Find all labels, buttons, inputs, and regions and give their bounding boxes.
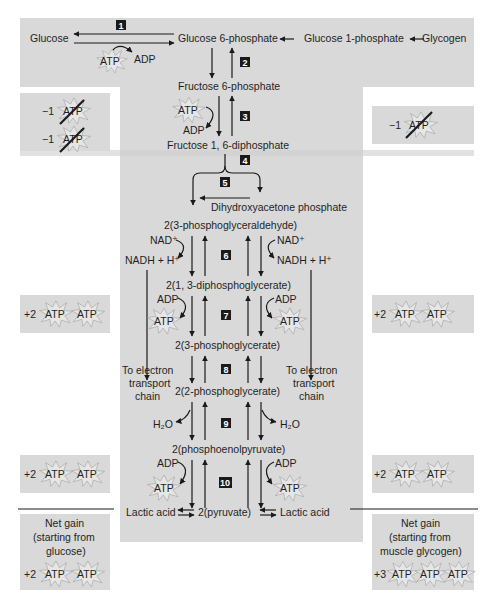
net-gain-glycogen-line1: Net gain — [401, 517, 440, 529]
left-gain10-amount: +2 — [24, 468, 36, 480]
nadh-left: NADH + H⁺ — [125, 254, 180, 266]
left-gain7-atp-2: ATP — [77, 308, 97, 320]
step-7-number: 7 — [224, 311, 229, 321]
nadh-right: NADH + H⁺ — [277, 254, 332, 266]
phosphoglyceraldehyde-label: 2(3-phosphoglyceraldehyde) — [164, 219, 297, 231]
step-2-number: 2 — [243, 58, 248, 68]
phosphoglycerate-2-label: 2(2-phosphoglycerate) — [175, 385, 280, 397]
step-6-number: 6 — [224, 251, 229, 261]
left-gain7-amount: +2 — [24, 308, 36, 320]
fructose-1-6-diphosphate-label: Fructose 1, 6-diphosphate — [167, 139, 289, 151]
left-gain10-atp-1: ATP — [45, 468, 65, 480]
etc-right-line2: transport — [293, 377, 335, 389]
nad-right: NAD⁺ — [277, 234, 305, 246]
diphosphoglycerate-label: 2(1, 3-diphosphoglycerate) — [166, 279, 291, 291]
net-gain-glycogen-atp-1: ATP — [392, 568, 412, 580]
atp-left-step10: ATP — [154, 482, 174, 494]
glucose-label: Glucose — [30, 32, 69, 44]
net-gain-glucose-line2: (starting from — [33, 531, 95, 543]
etc-left-line1: To electron — [122, 364, 174, 376]
right-gain7-atp-1: ATP — [395, 308, 415, 320]
step-8-number: 8 — [224, 365, 229, 375]
right-gain10-atp-2: ATP — [427, 468, 447, 480]
etc-right-line3: chain — [299, 390, 324, 402]
net-gain-glycogen-line3: muscle glycogen) — [380, 545, 462, 557]
right-gain10-atp-1: ATP — [395, 468, 415, 480]
adp-left-step10: ADP — [157, 457, 179, 469]
h2o-right: H₂O — [280, 418, 300, 430]
glucose-6-phosphate-label: Glucose 6-phosphate — [178, 32, 278, 44]
atp-right-step10: ATP — [280, 482, 300, 494]
adp-step1: ADP — [134, 53, 156, 65]
right-gain7-amount: +2 — [374, 308, 386, 320]
net-gain-glucose-line3: glucose) — [46, 545, 86, 557]
h2o-left: H₂O — [153, 418, 173, 430]
glycogen-label: Glycogen — [422, 32, 467, 44]
phosphoglycerate-3-label: 2(3-phosphoglycerate) — [175, 339, 280, 351]
phosphoenolpyruvate-label: 2(phosphoenolpyruvate) — [172, 443, 285, 455]
glucose-1-phosphate-label: Glucose 1-phosphate — [304, 32, 404, 44]
net-gain-glycogen-atp-2: ATP — [420, 568, 440, 580]
adp-step3: ADP — [183, 124, 205, 136]
atp-step1: ATP — [100, 55, 120, 67]
pyruvate-label: 2(pyruvate) — [198, 506, 251, 518]
right-gain-step7-box — [372, 295, 474, 333]
right-gain7-atp-2: ATP — [427, 308, 447, 320]
left-cost-amount-2: −1 — [42, 133, 54, 145]
net-gain-glycogen-amount: +3 — [374, 568, 386, 580]
atp-left-step7: ATP — [154, 315, 174, 327]
etc-left-line3: chain — [135, 390, 160, 402]
net-gain-glucose-line1: Net gain — [45, 517, 84, 529]
net-gain-glucose-atp-2: ATP — [77, 568, 97, 580]
lactic-acid-left-label: Lactic acid — [126, 506, 176, 518]
step-3-number: 3 — [243, 112, 248, 122]
nad-left: NAD⁺ — [150, 234, 178, 246]
net-gain-glycogen-atp-3: ATP — [448, 568, 468, 580]
right-gain-step10-box — [372, 455, 474, 493]
left-cost-amount-1: −1 — [42, 105, 54, 117]
step-9-number: 9 — [224, 419, 229, 429]
lactic-acid-right-label: Lactic acid — [280, 506, 330, 518]
atp-step3: ATP — [178, 104, 198, 116]
step-5-number: 5 — [223, 178, 228, 188]
etc-left-line2: transport — [129, 377, 171, 389]
atp-right-step7: ATP — [280, 315, 300, 327]
step-1-number: 1 — [119, 21, 124, 31]
adp-left-step7: ADP — [157, 293, 179, 305]
adp-right-step7: ADP — [275, 293, 297, 305]
glycolysis-diagram: Glucose 1 ATP ADP Glucose 6-phosphate Gl… — [0, 0, 496, 607]
dhap-label: Dihydroxyacetone phosphate — [211, 201, 347, 213]
adp-right-step10: ADP — [275, 457, 297, 469]
net-gain-glucose-amount: +2 — [24, 568, 36, 580]
right-cost-amount: −1 — [389, 119, 401, 131]
step-4-number: 4 — [243, 156, 248, 166]
right-gain10-amount: +2 — [374, 468, 386, 480]
net-gain-glucose-atp-1: ATP — [45, 568, 65, 580]
net-gain-glycogen-line2: (starting from — [389, 531, 451, 543]
fructose-6-phosphate-label: Fructose 6-phosphate — [178, 80, 280, 92]
etc-right-line1: To electron — [286, 364, 338, 376]
left-gain10-atp-2: ATP — [77, 468, 97, 480]
left-gain7-atp-1: ATP — [45, 308, 65, 320]
step-10-number: 10 — [220, 478, 230, 488]
